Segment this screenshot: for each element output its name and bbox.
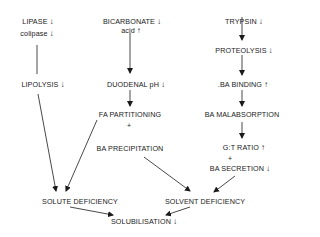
- node-label: LIPOLYSIS: [21, 80, 58, 89]
- plus-sign: +: [127, 122, 131, 129]
- node-colipase: colipase↓: [20, 30, 53, 38]
- increase-arrow-icon: ↑: [137, 26, 141, 35]
- node-label: BICARBONATE: [103, 17, 155, 26]
- node-label: BA MALABSORPTION: [205, 110, 280, 119]
- node-solubilisation: SOLUBILISATION↓: [111, 218, 177, 226]
- node-label: SOLUTE DEFICIENCY: [42, 197, 118, 206]
- node-label: FA PARTITIONING: [99, 110, 161, 119]
- node-proteolysis: PROTEOLYSIS↓: [215, 47, 272, 55]
- node-ba-binding: .BA BINDING↑: [218, 81, 268, 89]
- node-bicarbonate: BICARBONATE↓: [103, 18, 161, 26]
- node-label: SOLVENT DEFICIENCY: [165, 197, 245, 206]
- decrease-arrow-icon: ↓: [173, 217, 177, 226]
- node-label: acid: [121, 26, 135, 35]
- node-label: SOLUBILISATION: [111, 217, 171, 226]
- node-label: .BA BINDING: [218, 80, 262, 89]
- node-ba-precipitation: BA PRECIPITATION: [97, 145, 164, 153]
- node-label: BA SECRETION: [210, 164, 264, 173]
- node-solute-deficiency: SOLUTE DEFICIENCY: [42, 198, 118, 206]
- node-trypsin: TRYPSIN↓: [225, 18, 263, 26]
- node-ba-malabsorption: BA MALABSORPTION: [205, 111, 280, 119]
- plus-sign: +: [228, 155, 232, 162]
- decrease-arrow-icon: ↓: [50, 17, 54, 26]
- decrease-arrow-icon: ↓: [50, 29, 54, 38]
- increase-arrow-icon: ↑: [264, 80, 268, 89]
- node-ba-secretion: BA SECRETION↓: [210, 165, 270, 173]
- node-duodenal-ph: DUODENAL pH↓: [107, 81, 165, 89]
- increase-arrow-icon: ↑: [261, 143, 265, 152]
- edge-lipolysis-solute: [38, 94, 56, 191]
- node-label: PROTEOLYSIS: [215, 46, 266, 55]
- node-label: DUODENAL pH: [107, 80, 159, 89]
- node-acid: acid↑: [121, 27, 141, 35]
- node-solvent-deficiency: SOLVENT DEFICIENCY: [165, 198, 245, 206]
- node-label: TRYPSIN: [225, 17, 257, 26]
- decrease-arrow-icon: ↓: [259, 17, 263, 26]
- edge-solute-solubilisation: [70, 207, 113, 215]
- edge-solvent-solubilisation: [166, 207, 190, 215]
- node-label: BA PRECIPITATION: [97, 144, 164, 153]
- decrease-arrow-icon: ↓: [157, 17, 161, 26]
- decrease-arrow-icon: ↓: [61, 80, 65, 89]
- edge-ba-precipitation-solvent: [144, 157, 190, 191]
- node-label: LIPASE: [22, 17, 47, 26]
- node-lipase: LIPASE↓: [22, 18, 53, 26]
- edge-ba-secretion-solvent: [214, 176, 235, 192]
- node-gt-ratio: G:T RATIO↑: [223, 144, 265, 152]
- node-label: G:T RATIO: [223, 143, 259, 152]
- node-lipolysis: LIPOLYSIS↓: [21, 81, 64, 89]
- node-fa-partitioning: FA PARTITIONING: [99, 111, 161, 119]
- decrease-arrow-icon: ↓: [161, 80, 165, 89]
- decrease-arrow-icon: ↓: [266, 164, 270, 173]
- decrease-arrow-icon: ↓: [269, 46, 273, 55]
- edge-fa-partitioning-solute: [66, 120, 97, 191]
- node-label: colipase: [20, 29, 47, 38]
